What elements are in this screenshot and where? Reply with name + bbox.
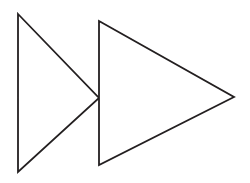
- triangles-figure: Two overlapping right-pointing triangles…: [0, 0, 250, 183]
- figure-canvas: Two overlapping right-pointing triangles…: [0, 0, 250, 183]
